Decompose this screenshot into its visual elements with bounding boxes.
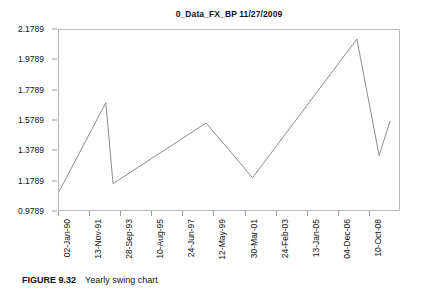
series-polyline-0_Data_FX_BP: [59, 39, 390, 192]
x-axis: 02-Jan-9013-Nov-9128-Sep-9310-Aug-9524-J…: [58, 213, 400, 283]
x-tick-label: 30-Mar-01: [249, 219, 259, 258]
x-tick-label: 28-Sep-93: [124, 219, 134, 259]
y-tick-mark: [52, 211, 57, 212]
y-tick-mark: [52, 150, 57, 151]
y-axis: 2.17891.97891.77891.57891.37891.17890.97…: [0, 29, 52, 211]
figure-caption-text: Yearly swing chart: [85, 275, 158, 285]
y-tick-mark: [52, 180, 57, 181]
y-tick-label: 1.3789: [18, 145, 44, 155]
y-tick-label: 0.9789: [18, 206, 44, 216]
y-tick-label: 1.9789: [18, 54, 44, 64]
x-tick-label: 13-Nov-91: [93, 219, 103, 259]
x-tick-mark: [89, 211, 90, 216]
x-tick-label: 04-Dec-06: [342, 219, 352, 259]
y-tick-label: 2.1789: [18, 24, 44, 34]
y-tick-label: 1.7789: [18, 85, 44, 95]
figure-caption-label: FIGURE 9.32: [22, 275, 76, 285]
x-tick-mark: [276, 211, 277, 216]
y-tick-mark: [52, 89, 57, 90]
y-tick-label: 1.1789: [18, 176, 44, 186]
x-tick-label: 13-Jan-05: [311, 219, 321, 257]
x-tick-mark: [151, 211, 152, 216]
y-tick-mark: [52, 120, 57, 121]
x-tick-mark: [213, 211, 214, 216]
x-tick-mark: [338, 211, 339, 216]
x-tick-mark: [182, 211, 183, 216]
plot-area: [58, 29, 400, 211]
x-tick-label: 24-Jun-97: [186, 219, 196, 257]
y-tick-mark: [52, 59, 57, 60]
figure-caption: FIGURE 9.32Yearly swing chart: [22, 275, 158, 285]
x-tick-mark: [369, 211, 370, 216]
y-tick-label: 1.5789: [18, 115, 44, 125]
series-line-chart: [59, 30, 401, 212]
x-tick-label: 10-Oct-08: [373, 219, 383, 257]
x-tick-mark: [120, 211, 121, 216]
x-tick-label: 24-Feb-03: [280, 219, 290, 258]
y-tick-mark: [52, 29, 57, 30]
x-tick-label: 12-May-99: [217, 219, 227, 260]
chart-title: 0_Data_FX_BP 11/27/2009: [58, 9, 400, 19]
x-tick-mark: [245, 211, 246, 216]
figure-container: 0_Data_FX_BP 11/27/2009 2.17891.97891.77…: [0, 0, 421, 300]
x-tick-label: 10-Aug-95: [155, 219, 165, 259]
x-tick-mark: [58, 211, 59, 216]
x-tick-mark: [307, 211, 308, 216]
x-tick-label: 02-Jan-90: [62, 219, 72, 257]
